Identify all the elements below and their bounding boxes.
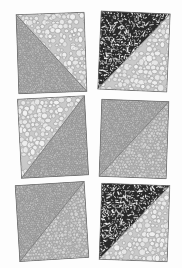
specimen-panel-1-1: [16, 12, 88, 94]
specimen-image: [15, 181, 90, 262]
specimen-image: [17, 95, 89, 178]
specimen-panel-3-1: [15, 181, 90, 262]
figure-panel-grid: [0, 0, 182, 268]
specimen-panel-2-2: [99, 99, 170, 179]
specimen-panel-1-2: [97, 11, 170, 93]
specimen-panel-2-1: [17, 95, 89, 178]
specimen-image: [99, 99, 170, 179]
specimen-image: [99, 183, 171, 262]
specimen-image: [16, 12, 88, 94]
specimen-image: [97, 11, 170, 93]
specimen-panel-3-2: [99, 183, 171, 262]
